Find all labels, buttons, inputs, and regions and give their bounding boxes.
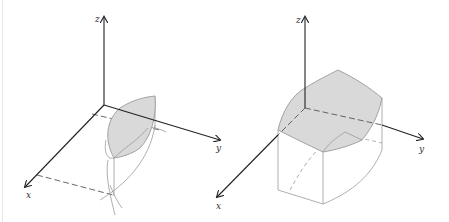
x-axis-label: x bbox=[26, 190, 31, 200]
box-edge bbox=[323, 150, 382, 204]
x-axis-label: x bbox=[216, 201, 221, 211]
y-axis-label: y bbox=[215, 143, 222, 153]
right-diagram: z y x bbox=[216, 15, 425, 211]
projection-line bbox=[37, 175, 113, 195]
diagram-canvas: z y x z y x bbox=[0, 0, 449, 222]
x-axis bbox=[217, 135, 278, 197]
left-diagram: z y x bbox=[25, 14, 222, 215]
y-axis bbox=[382, 125, 423, 139]
z-axis-label: z bbox=[295, 15, 301, 25]
y-axis-label: y bbox=[418, 144, 425, 154]
box-edge bbox=[278, 190, 323, 204]
x-axis bbox=[25, 105, 104, 187]
z-axis-label: z bbox=[94, 14, 100, 24]
